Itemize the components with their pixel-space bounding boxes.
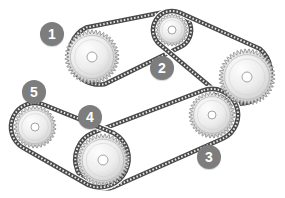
callout-badge-2[interactable]: 2 [150, 56, 174, 80]
callout-badge-3[interactable]: 3 [197, 145, 221, 169]
callout-badge-1-label: 1 [40, 22, 64, 46]
diagram-canvas: 1 2 3 4 5 [0, 0, 285, 198]
callout-badge-2-label: 2 [150, 56, 174, 80]
sprocket-right-large[interactable] [219, 49, 275, 105]
callout-badge-5[interactable]: 5 [22, 80, 46, 104]
callout-badge-3-label: 3 [197, 145, 221, 169]
callout-badge-4-label: 4 [78, 105, 102, 129]
callout-badge-1[interactable]: 1 [40, 22, 64, 46]
callout-badge-4[interactable]: 4 [78, 105, 102, 129]
callout-badge-5-label: 5 [22, 80, 46, 104]
sprocket-center-right[interactable] [189, 92, 235, 138]
